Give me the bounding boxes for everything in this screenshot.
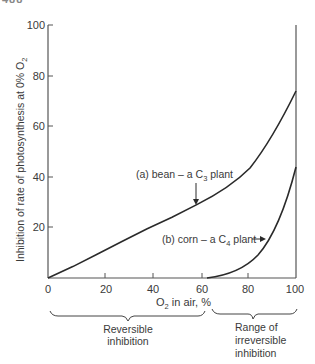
- y-tick-60: 60: [33, 120, 45, 132]
- y-axis-label: Inhibition of rate of photosynthesis at …: [14, 58, 29, 262]
- series-a-bean-curve: [48, 91, 296, 278]
- y-ticks: [48, 25, 53, 227]
- irreversible-label-line3: inhibition: [235, 347, 277, 359]
- x-tick-60: 60: [196, 283, 208, 295]
- y-tick-labels: 100 80 60 40 20: [27, 19, 45, 233]
- reversible-label-line2: inhibition: [107, 335, 149, 347]
- x-tick-20: 20: [100, 283, 112, 295]
- x-tick-labels: 0 20 40 60 80 100: [45, 283, 304, 295]
- series-b-label: (b) corn – a C4 plant: [162, 233, 256, 248]
- y-tick-20: 20: [33, 221, 45, 233]
- x-tick-80: 80: [242, 283, 254, 295]
- brace-irreversible: [212, 309, 297, 319]
- arrow-down-icon: [193, 183, 199, 205]
- x-tick-100: 100: [286, 283, 304, 295]
- y-tick-40: 40: [33, 171, 45, 183]
- reversible-label-line1: Reversible: [103, 323, 153, 335]
- chart: 100 80 60 40 20 0 20 40 60 80 100 O2 in …: [0, 0, 315, 364]
- x-axis-label: O2 in air, %: [156, 296, 211, 311]
- irreversible-label-line1: Range of: [235, 321, 278, 333]
- series-b-corn-curve: [207, 167, 296, 278]
- brace-reversible: [50, 311, 205, 321]
- series-a-label: (a) bean – a C3 plant: [136, 168, 233, 183]
- x-tick-0: 0: [45, 283, 51, 295]
- x-tick-40: 40: [147, 283, 159, 295]
- y-tick-80: 80: [33, 70, 45, 82]
- y-tick-100: 100: [27, 19, 45, 31]
- irreversible-label-line2: irreversible: [235, 334, 287, 346]
